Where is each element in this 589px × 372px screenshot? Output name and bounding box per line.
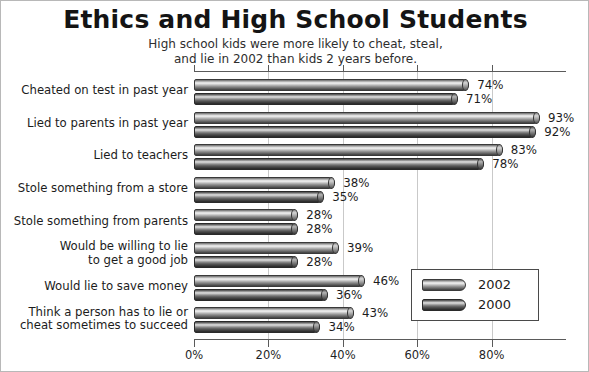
bar-2002-6[interactable] xyxy=(194,275,365,287)
bar-2002-7[interactable] xyxy=(194,307,354,319)
legend-swatch-2002 xyxy=(422,279,466,291)
axis-top-line xyxy=(194,71,566,72)
value-label-2000-2: 78% xyxy=(492,157,518,171)
axis-bottom-line xyxy=(194,339,566,340)
bar-2002-1[interactable] xyxy=(194,112,540,124)
category-label-5: Would be willing to lieto get a good job xyxy=(1,240,188,267)
bar-end-cap xyxy=(496,144,503,156)
chart-legend[interactable]: 2002 2000 xyxy=(411,269,539,321)
bar-2000-7[interactable] xyxy=(194,321,320,333)
tick-top-60% xyxy=(417,65,418,71)
chart-subtitle-line-1: High school kids were more likely to che… xyxy=(1,37,589,52)
chart-subtitle-line-2: and lie in 2002 than kids 2 years before… xyxy=(1,52,589,67)
bar-end-cap xyxy=(317,191,324,203)
bar-end-cap xyxy=(529,126,536,138)
category-label-4: Stole something from parents xyxy=(1,215,188,229)
category-label-6: Would lie to save money xyxy=(1,280,188,294)
category-label-line: Would lie to save money xyxy=(1,280,188,294)
category-label-line: Lied to teachers xyxy=(1,149,188,163)
bar-2000-2[interactable] xyxy=(194,158,484,170)
category-label-1: Lied to parents in past year xyxy=(1,117,188,131)
value-label-2002-1: 93% xyxy=(548,111,574,125)
bar-end-cap xyxy=(358,275,365,287)
bar-end-cap xyxy=(477,158,484,170)
tick-bottom-80% xyxy=(492,340,493,347)
x-tick-label-0%: 0% xyxy=(185,348,203,362)
value-label-2000-3: 35% xyxy=(332,190,358,204)
value-label-2000-5: 28% xyxy=(306,255,332,269)
tick-top-80% xyxy=(492,65,493,71)
value-label-2000-0: 71% xyxy=(466,92,492,106)
value-label-2002-4: 28% xyxy=(306,208,332,222)
bar-2000-3[interactable] xyxy=(194,191,324,203)
category-label-line: cheat sometimes to succeed xyxy=(1,319,188,333)
value-label-2002-5: 39% xyxy=(347,241,373,255)
tick-top-20% xyxy=(268,65,269,71)
bar-end-cap xyxy=(332,242,339,254)
value-label-2002-7: 43% xyxy=(362,306,388,320)
category-label-2: Lied to teachers xyxy=(1,149,188,163)
bar-2002-3[interactable] xyxy=(194,177,335,189)
category-label-line: Would be willing to lie xyxy=(1,240,188,254)
value-label-2000-6: 36% xyxy=(336,288,362,302)
category-label-line: Stole something from a store xyxy=(1,182,188,196)
value-label-2000-7: 34% xyxy=(328,320,354,334)
value-label-2000-4: 28% xyxy=(306,222,332,236)
bar-2000-1[interactable] xyxy=(194,126,536,138)
bar-2000-0[interactable] xyxy=(194,93,458,105)
chart-title: Ethics and High School Students xyxy=(1,5,589,34)
bar-end-cap xyxy=(462,79,469,91)
value-label-2002-6: 46% xyxy=(373,274,399,288)
tick-bottom-20% xyxy=(268,340,269,347)
tick-top-0% xyxy=(194,65,195,71)
tick-bottom-60% xyxy=(417,340,418,347)
legend-label-2000: 2000 xyxy=(478,297,511,312)
bar-end-cap xyxy=(313,321,320,333)
category-label-line: Stole something from parents xyxy=(1,215,188,229)
bar-2002-5[interactable] xyxy=(194,242,339,254)
category-label-line: to get a good job xyxy=(1,254,188,268)
bar-2000-5[interactable] xyxy=(194,256,298,268)
bar-end-cap xyxy=(321,289,328,301)
category-label-line: Cheated on test in past year xyxy=(1,84,188,98)
x-tick-label-40%: 40% xyxy=(330,348,356,362)
category-label-0: Cheated on test in past year xyxy=(1,84,188,98)
category-label-3: Stole something from a store xyxy=(1,182,188,196)
bar-end-cap xyxy=(451,93,458,105)
bar-2000-4[interactable] xyxy=(194,223,298,235)
bar-end-cap xyxy=(347,307,354,319)
category-label-line: Think a person has to lie or xyxy=(1,306,188,320)
legend-label-2002: 2002 xyxy=(478,277,511,292)
bar-2002-0[interactable] xyxy=(194,79,469,91)
bar-end-cap xyxy=(291,223,298,235)
x-tick-label-60%: 60% xyxy=(404,348,430,362)
category-label-7: Think a person has to lie orcheat someti… xyxy=(1,306,188,333)
value-label-2002-0: 74% xyxy=(477,78,503,92)
value-label-2002-3: 38% xyxy=(343,176,369,190)
x-tick-label-20%: 20% xyxy=(256,348,282,362)
bar-end-cap xyxy=(291,256,298,268)
tick-bottom-40% xyxy=(343,340,344,347)
value-label-2000-1: 92% xyxy=(544,125,570,139)
bar-2000-6[interactable] xyxy=(194,289,328,301)
tick-top-40% xyxy=(343,65,344,71)
category-label-line: Lied to parents in past year xyxy=(1,117,188,131)
x-tick-label-80%: 80% xyxy=(479,348,505,362)
legend-swatch-2000 xyxy=(422,299,466,311)
bar-end-cap xyxy=(328,177,335,189)
value-label-2002-2: 83% xyxy=(511,143,537,157)
chart-container: Ethics and High School Students High sch… xyxy=(0,0,589,372)
chart-subtitle: High school kids were more likely to che… xyxy=(1,37,589,66)
tick-bottom-0% xyxy=(194,340,195,347)
bar-end-cap xyxy=(291,209,298,221)
bar-2002-4[interactable] xyxy=(194,209,298,221)
bar-end-cap xyxy=(533,112,540,124)
bar-2002-2[interactable] xyxy=(194,144,503,156)
x-axis-tick-labels: 0%20%40%60%80% xyxy=(1,348,589,366)
